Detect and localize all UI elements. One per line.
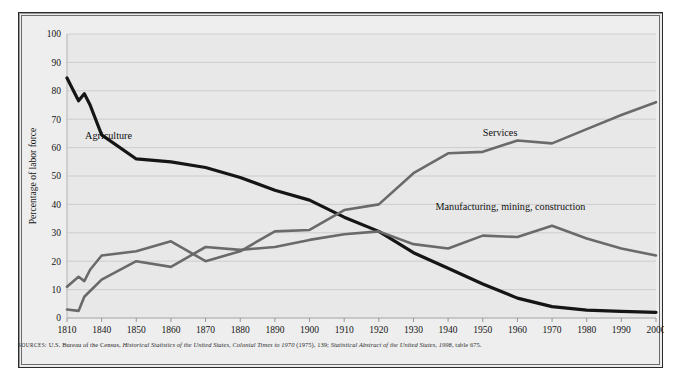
x-tick-label: 1920: [369, 325, 388, 335]
x-tick-label: 1850: [127, 325, 146, 335]
x-tick-label: 1970: [543, 325, 562, 335]
x-tick-label: 1900: [300, 325, 319, 335]
y-tick-label: 40: [52, 200, 62, 210]
y-axis-title: Percentage of labor force: [27, 128, 38, 225]
source-part3: , table 675.: [452, 341, 482, 348]
y-tick-label: 0: [56, 313, 61, 323]
source-part1: U.S. Bureau of the Census,: [49, 341, 121, 348]
x-tick-label: 1990: [612, 325, 631, 335]
y-tick-label: 30: [52, 228, 62, 238]
y-tick-label: 100: [47, 29, 62, 39]
x-tick-label: 1940: [439, 325, 458, 335]
y-tick-label: 60: [52, 143, 62, 153]
x-tick-label: 1880: [231, 325, 250, 335]
y-tick-label: 80: [52, 86, 62, 96]
y-tick-label: 20: [52, 257, 62, 267]
x-tick-label: 1960: [508, 325, 527, 335]
y-tick-label: 70: [52, 115, 62, 125]
x-tick-label: 1890: [265, 325, 284, 335]
y-tick-label: 90: [52, 58, 62, 68]
x-tick-label: 2000: [647, 325, 665, 335]
x-tick-label: 1840: [92, 325, 111, 335]
series-label: Services: [483, 127, 518, 138]
source-italic1: Historical Statistics of the United Stat…: [122, 341, 294, 348]
series-label: Manufacturing, mining, construction: [436, 201, 586, 212]
line-chart: 0102030405060708090100Percentage of labo…: [19, 13, 664, 369]
source-label: SOURCES:: [18, 342, 47, 348]
source-part2: (1975), 139;: [296, 341, 329, 348]
x-tick-label: 1950: [473, 325, 492, 335]
x-tick-label: 1910: [335, 325, 354, 335]
x-tick-label: 1860: [161, 325, 180, 335]
figure-frame: 0102030405060708090100Percentage of labo…: [18, 12, 663, 368]
y-tick-label: 10: [52, 285, 62, 295]
x-tick-label: 1810: [58, 325, 77, 335]
y-tick-label: 50: [52, 171, 62, 181]
source-italic2: Statistical Abstract of the United State…: [331, 341, 452, 348]
series-label: Agriculture: [85, 130, 132, 141]
source-note: SOURCES: U.S. Bureau of the Census, Hist…: [18, 341, 663, 349]
x-tick-label: 1870: [196, 325, 215, 335]
x-tick-label: 1980: [577, 325, 596, 335]
x-tick-label: 1930: [404, 325, 423, 335]
